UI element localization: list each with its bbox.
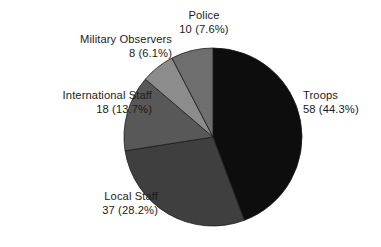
- pie-label-international-staff: International Staff 18 (13.7%): [0, 89, 152, 116]
- pie-chart-figure: Police 10 (7.6%) Military Observers 8 (6…: [0, 0, 381, 247]
- pie-label-troops-name: Troops: [303, 89, 381, 103]
- pie-label-local-staff-name: Local Staff: [22, 190, 158, 204]
- pie-label-international-staff-name: International Staff: [0, 89, 152, 103]
- pie-label-local-staff: Local Staff 37 (28.2%): [22, 190, 158, 217]
- pie-label-military-observers-name: Military Observers: [16, 33, 172, 47]
- pie-label-troops: Troops 58 (44.3%): [303, 89, 381, 116]
- pie-label-military-observers: Military Observers 8 (6.1%): [16, 33, 172, 60]
- pie-label-military-observers-value: 8 (6.1%): [16, 47, 172, 61]
- pie-label-troops-value: 58 (44.3%): [303, 103, 381, 117]
- pie-label-local-staff-value: 37 (28.2%): [22, 204, 158, 218]
- pie-label-police-name: Police: [148, 9, 260, 23]
- pie-label-international-staff-value: 18 (13.7%): [0, 103, 152, 117]
